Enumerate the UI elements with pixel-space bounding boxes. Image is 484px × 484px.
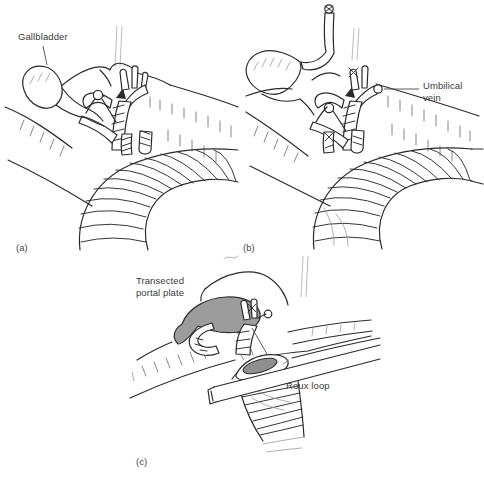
panel-a-letter: (a) <box>16 242 28 253</box>
retraction-lines <box>115 26 122 67</box>
roux-loop-label: Roux loop <box>286 380 330 392</box>
transected-portal-plate-label: Transected portal plate <box>127 275 193 299</box>
umbilical-vein-stump <box>374 85 382 93</box>
retraction-lines <box>301 256 308 297</box>
umbilical-vein-label: Umbilical vein <box>423 80 473 104</box>
figure: Gallbladder Umbilical vein Transected po… <box>0 0 484 484</box>
roux-loop-tube <box>208 345 380 404</box>
hepatic-artery <box>79 116 117 143</box>
gallbladder-leader-line <box>43 46 47 65</box>
panel-a-illustration <box>5 26 238 250</box>
retraction-lines <box>352 28 359 60</box>
portal-vein <box>310 66 382 153</box>
duodenum <box>313 148 483 249</box>
gallbladder-label: Gallbladder <box>18 31 68 43</box>
duodenum <box>79 149 238 250</box>
panel-b-letter: (b) <box>243 242 255 253</box>
panel-b-illustration <box>246 5 483 249</box>
figure-canvas <box>0 0 484 484</box>
panel-c-letter: (c) <box>136 456 147 467</box>
bile-duct-stump <box>351 130 364 153</box>
hepatic-artery-stump <box>93 90 102 99</box>
